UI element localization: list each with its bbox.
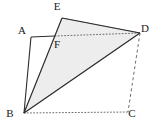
- vertex-label-a: A: [18, 24, 26, 36]
- edge-bc-dotted: [24, 112, 128, 113]
- geometry-canvas: A B C D E F: [0, 0, 158, 129]
- edge-dc-dashed: [128, 33, 140, 112]
- geometry-figure: A B C D E F: [0, 0, 158, 129]
- vertex-label-b: B: [6, 107, 13, 119]
- vertex-label-c: C: [128, 107, 135, 119]
- vertex-label-f: F: [54, 38, 60, 50]
- shaded-region-bfed: [24, 18, 140, 113]
- vertex-label-d: D: [141, 22, 149, 34]
- vertex-label-e: E: [54, 0, 61, 12]
- edge-af-solid: [31, 36, 55, 37]
